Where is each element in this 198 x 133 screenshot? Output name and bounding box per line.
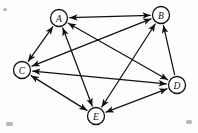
node-e[interactable]: E xyxy=(88,108,105,125)
node-circle-d xyxy=(169,77,186,94)
graph-diagram: ABCDE xyxy=(0,0,198,133)
scan-speck-3 xyxy=(3,8,7,11)
node-d[interactable]: D xyxy=(169,77,186,94)
edges-layer xyxy=(28,15,174,112)
scan-speck-2 xyxy=(186,120,192,124)
edge-a-b xyxy=(70,15,151,17)
scan-speck-1 xyxy=(6,122,13,126)
node-circle-b xyxy=(153,7,170,24)
node-circle-a xyxy=(51,10,68,27)
edge-d-b xyxy=(163,25,174,74)
edge-a-c xyxy=(28,27,53,62)
edge-c-e xyxy=(31,76,87,111)
node-circle-e xyxy=(88,108,105,125)
graph-canvas: ABCDE xyxy=(0,0,198,133)
node-b[interactable]: B xyxy=(153,7,170,24)
edge-a-e xyxy=(63,28,92,106)
edge-d-e xyxy=(106,89,167,112)
node-c[interactable]: C xyxy=(14,62,31,79)
edge-b-e xyxy=(102,24,155,107)
edge-c-d xyxy=(33,71,167,84)
node-a[interactable]: A xyxy=(51,10,68,27)
node-circle-c xyxy=(14,62,31,79)
nodes-layer: ABCDE xyxy=(14,7,186,125)
